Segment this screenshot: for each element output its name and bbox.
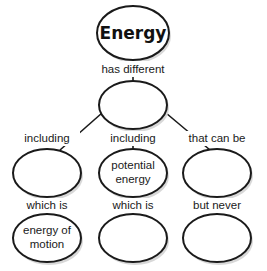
link-label-left-top: including — [24, 132, 69, 144]
link-label-has-different: has different — [101, 63, 165, 75]
link-label-center-top: including — [110, 132, 155, 144]
node-root: Energy — [97, 6, 171, 63]
link-label-right-bottom: but never — [193, 199, 241, 211]
node-right-bottom — [183, 214, 253, 265]
node-left-bottom-line1: energy of — [23, 224, 72, 236]
node-left-top — [13, 149, 83, 200]
node-root-label: Energy — [100, 23, 167, 43]
concept-map: Energy has different including including… — [0, 0, 267, 271]
link-label-right-top: that can be — [189, 132, 246, 144]
node-middle — [99, 81, 169, 132]
node-left-bottom: energy of motion — [13, 214, 83, 265]
link-label-left-bottom: which is — [26, 199, 68, 211]
node-center-bottom — [99, 214, 169, 265]
node-center-top-line2: energy — [115, 173, 150, 185]
link-label-center-bottom: which is — [112, 199, 154, 211]
node-center-top: potential energy — [99, 149, 169, 200]
node-left-bottom-line2: motion — [30, 238, 65, 250]
node-right-top — [183, 149, 253, 200]
node-center-top-line1: potential — [111, 159, 154, 171]
